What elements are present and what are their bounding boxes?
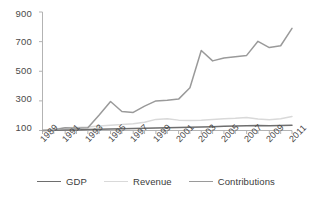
plot-area (0, 0, 312, 200)
legend-item-contributions[interactable]: Contributions (189, 176, 275, 187)
legend-item-revenue[interactable]: Revenue (104, 176, 172, 187)
legend-swatch-gdp (37, 181, 61, 182)
y-axis-ticks (39, 12, 43, 131)
legend-swatch-revenue (104, 181, 128, 182)
chart-legend: GDP Revenue Contributions (0, 176, 312, 187)
legend-swatch-contributions (189, 181, 213, 182)
series-lines (43, 28, 293, 130)
line-chart: 900 700 500 300 100 19891991199319951997… (0, 0, 312, 200)
legend-item-gdp[interactable]: GDP (37, 176, 87, 187)
legend-label-revenue: Revenue (133, 176, 172, 187)
series-line-contributions (43, 28, 293, 130)
axis-lines (42, 12, 292, 131)
legend-label-contributions: Contributions (218, 176, 275, 187)
legend-label-gdp: GDP (66, 176, 87, 187)
